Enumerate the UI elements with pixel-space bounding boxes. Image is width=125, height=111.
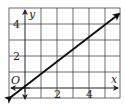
coordinate-graph: y x O 4 2 2 4: [0, 0, 125, 111]
y-tick-2: 2: [13, 50, 20, 63]
y-axis-label: y: [28, 8, 36, 21]
x-tick-2: 2: [54, 88, 61, 101]
origin-label: O: [11, 74, 20, 87]
y-tick-4: 4: [13, 18, 20, 31]
x-axis-label: x: [111, 73, 118, 86]
data-line: [11, 14, 119, 97]
x-tick-4: 4: [86, 88, 93, 101]
